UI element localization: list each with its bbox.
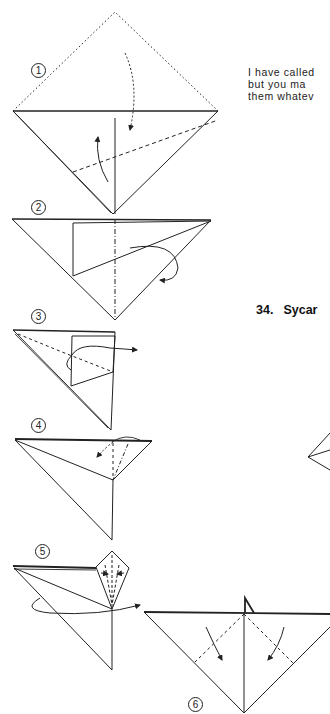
intro-line: but you ma: [248, 78, 315, 90]
step-3-diagram: [13, 330, 137, 430]
step-6-diagram: [144, 598, 330, 713]
step-number-3: 3: [31, 309, 46, 324]
intro-line: I have called: [248, 66, 315, 78]
origami-diagrams: [0, 0, 330, 714]
step-2-diagram: [12, 219, 211, 320]
step-number-2: 2: [31, 200, 46, 215]
step-number-1: 1: [31, 63, 46, 78]
step-number-4: 4: [31, 418, 46, 433]
intro-paragraph: I have called but you ma them whatev: [248, 66, 315, 102]
step-5-diagram: [13, 551, 140, 670]
section-heading: 34.Sycar: [256, 303, 317, 317]
step-number-5: 5: [35, 544, 50, 559]
step-4-diagram: [15, 437, 152, 540]
step-number-6: 6: [188, 697, 203, 712]
step-7-partial-diagram: [308, 433, 330, 470]
section-title-text: Sycar: [283, 303, 317, 317]
book-page: 1 2 3 4 5 6 I have called but you ma the…: [0, 0, 330, 714]
intro-line: them whatev: [248, 90, 315, 102]
step-1-diagram: [13, 12, 218, 214]
section-number: 34.: [256, 303, 273, 317]
